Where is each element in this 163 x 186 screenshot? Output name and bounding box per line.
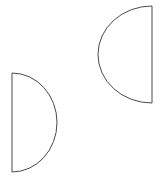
shapes-svg-canvas bbox=[0, 0, 163, 186]
drawing-canvas bbox=[0, 0, 163, 186]
canvas-background bbox=[0, 0, 163, 186]
